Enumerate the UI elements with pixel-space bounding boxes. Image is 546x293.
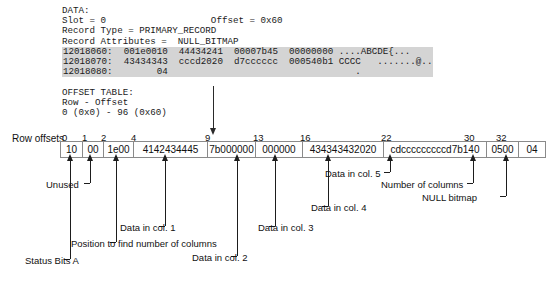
callout-label-status-bits-a: Status Bits A (25, 255, 79, 266)
byte-cell: 7b000000 (208, 142, 256, 157)
callout-label-unused: Unused (46, 179, 79, 190)
callout-label-data-in-col-1: Data in col. 1 (120, 222, 175, 233)
callout-arrow-unused (90, 160, 91, 183)
callout-label-data-in-col-5: Data in col. 5 (325, 168, 380, 179)
callout-arrow-data-in-col-5 (390, 160, 391, 172)
row-offsets-label: Row offsets (12, 133, 64, 144)
hex-dump-line: 12018080: 04 . (62, 67, 433, 77)
callout-arrow-null-bitmap (506, 160, 507, 196)
byte-cell: 04 (519, 142, 545, 157)
callout-arrow-data-in-col-1 (165, 160, 166, 226)
callout-label-data-in-col-3: Data in col. 3 (258, 222, 313, 233)
callout-elbow-number-of-columns (467, 183, 473, 184)
byte-cell: 4142434445 (134, 142, 208, 157)
hex-dump-line (62, 77, 433, 87)
callout-arrow-number-of-columns (473, 160, 474, 183)
callout-elbow-data-in-col-5 (384, 172, 390, 173)
callout-label-position-number-of-columns: Position to find number of columns (71, 238, 217, 249)
callout-label-data-in-col-2: Data in col. 2 (192, 252, 247, 263)
byte-cell: 000000 (256, 142, 303, 157)
callout-arrow-position-number-of-columns (116, 160, 117, 242)
hex-dump-line: 0 (0x0) - 96 (0x60) (62, 108, 433, 118)
callout-arrow-data-in-col-3 (275, 160, 276, 226)
callout-label-number-of-columns: Number of columns (381, 179, 463, 190)
callout-arrow-data-in-col-2 (237, 160, 238, 256)
callout-label-data-in-col-4: Data in col. 4 (311, 202, 366, 213)
byte-cell: 1e00 (104, 142, 134, 157)
callout-label-null-bitmap: NULL bitmap (422, 192, 477, 203)
callout-arrow-data-in-col-4 (328, 160, 329, 206)
byte-cell: 434343432020 (303, 142, 384, 157)
callout-elbow-unused (84, 183, 90, 184)
offset-pointer-arrow (213, 86, 214, 129)
hex-dump-panel: DATA:Slot = 0 Offset = 0x60Record Type =… (62, 6, 433, 118)
callout-elbow-null-bitmap (500, 196, 506, 197)
